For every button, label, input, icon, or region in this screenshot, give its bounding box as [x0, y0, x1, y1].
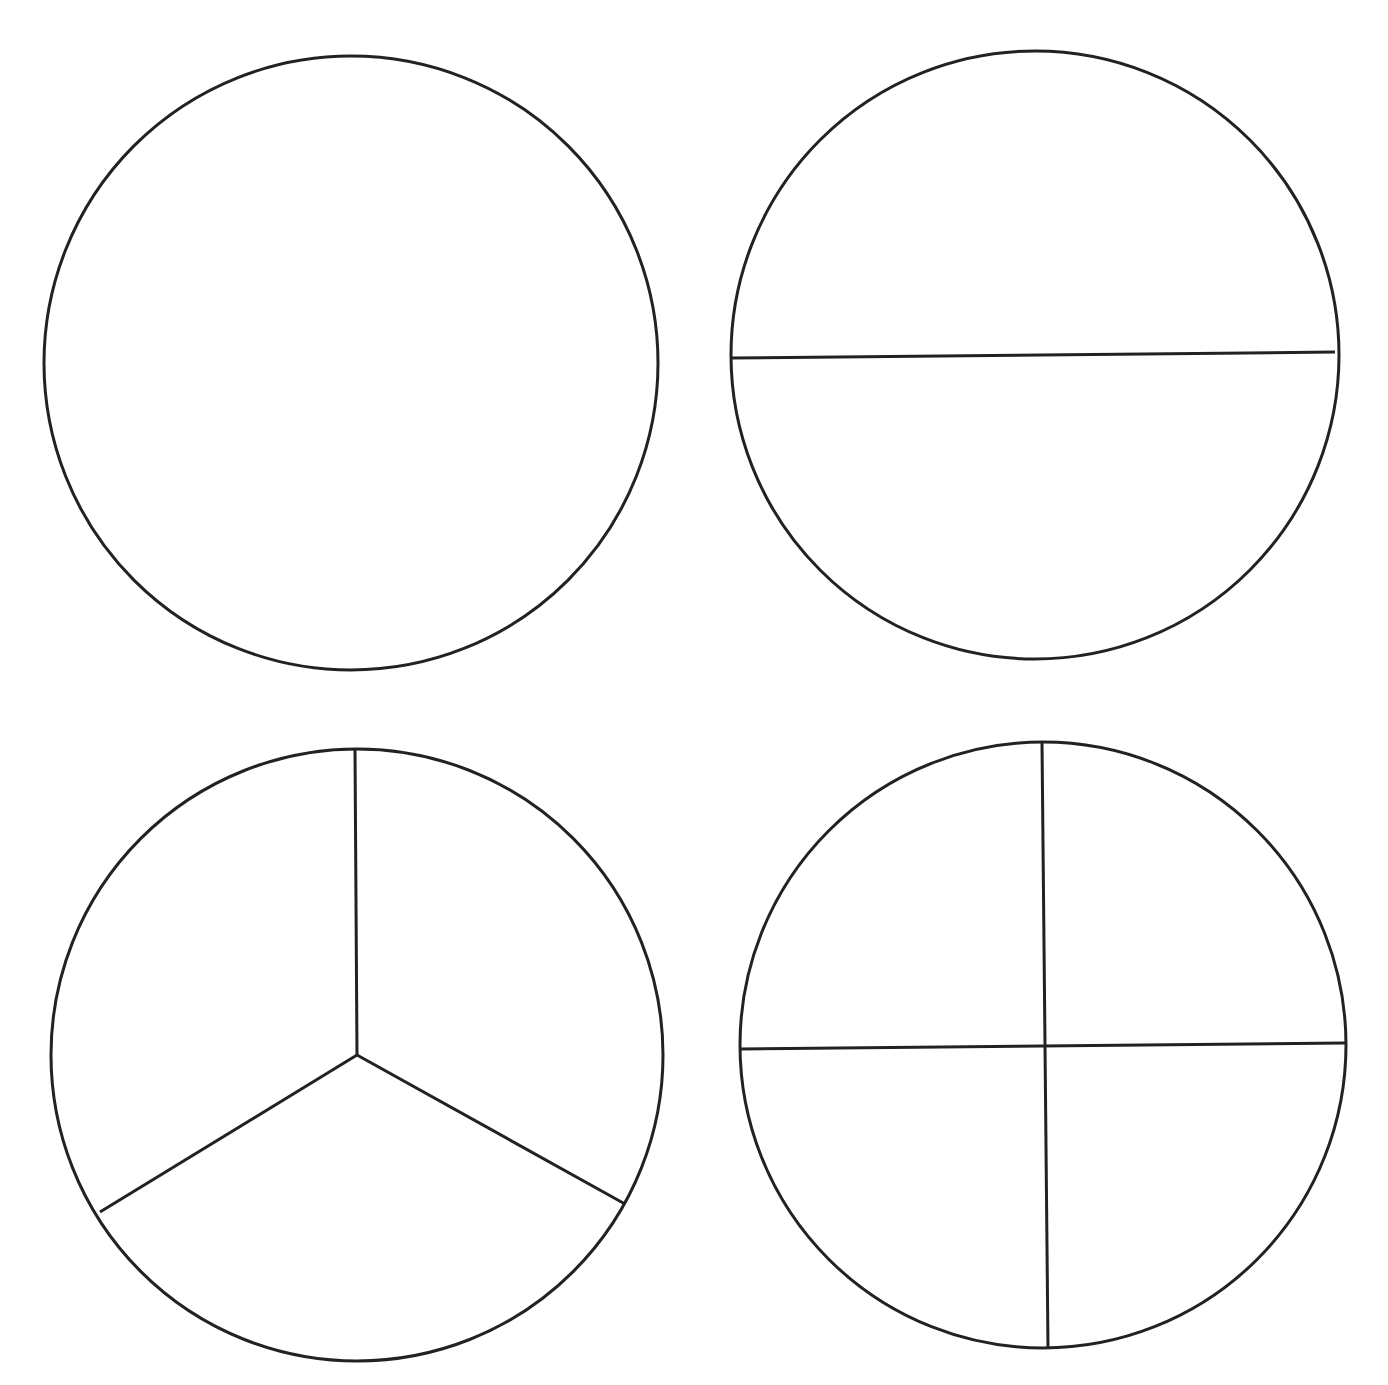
divider-line: [740, 1043, 1345, 1049]
circle-outline: [44, 56, 658, 670]
circle-quarters: [740, 742, 1346, 1348]
divider-line: [355, 749, 357, 1055]
circle-halves: [731, 51, 1339, 659]
divider-line: [100, 1055, 357, 1212]
divider-line: [731, 352, 1335, 358]
divider-line: [357, 1055, 625, 1204]
circle-whole: [44, 56, 658, 670]
circle-thirds: [51, 749, 663, 1361]
fraction-circles-diagram: [0, 0, 1388, 1385]
